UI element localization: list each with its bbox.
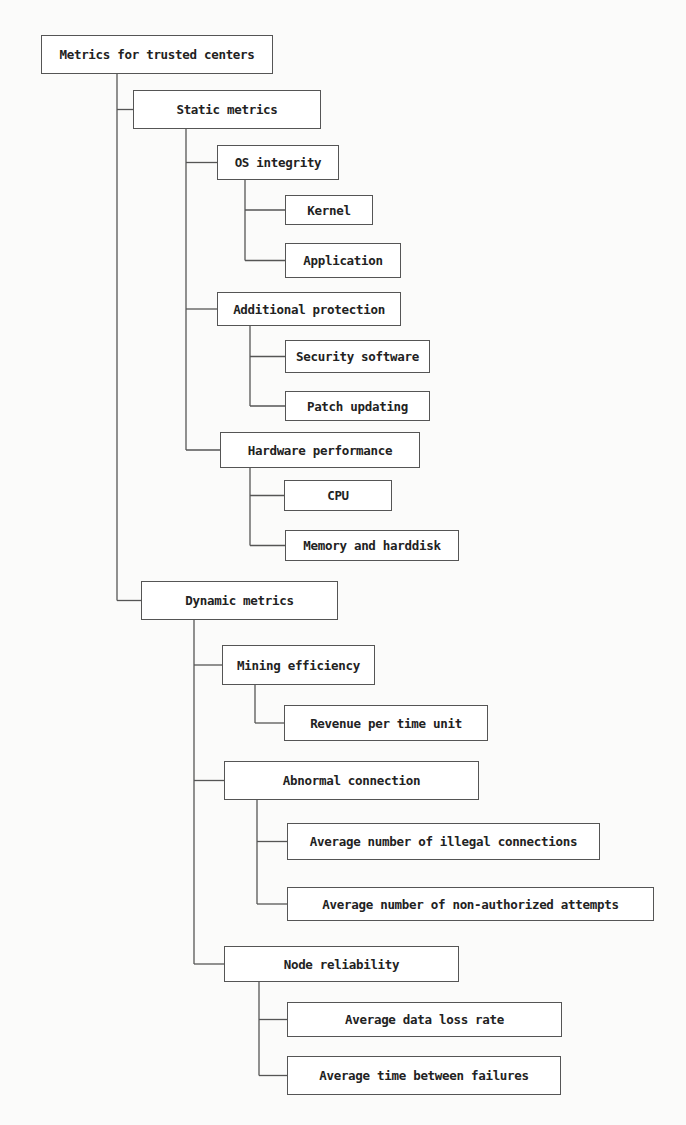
tree-node-root: Metrics for trusted centers	[41, 35, 273, 74]
tree-node-illegal: Average number of illegal connections	[287, 823, 600, 860]
tree-node-addprot: Additional protection	[217, 292, 401, 326]
tree-node-dynamic: Dynamic metrics	[141, 581, 338, 620]
tree-node-mining: Mining efficiency	[222, 645, 375, 685]
tree-node-hw: Hardware performance	[220, 432, 420, 468]
tree-node-dataloss: Average data loss rate	[287, 1002, 562, 1037]
tree-node-static: Static metrics	[133, 90, 321, 129]
tree-node-revenue: Revenue per time unit	[284, 705, 488, 741]
tree-node-nonauth: Average number of non-authorized attempt…	[287, 887, 654, 921]
tree-node-mem: Memory and harddisk	[285, 530, 459, 561]
tree-node-mtbf: Average time between failures	[287, 1056, 561, 1095]
metrics-tree-diagram: Metrics for trusted centersStatic metric…	[0, 0, 686, 1125]
tree-node-app: Application	[285, 243, 401, 278]
tree-node-patch: Patch updating	[285, 391, 430, 421]
tree-node-secsw: Security software	[285, 340, 430, 373]
tree-node-node: Node reliability	[224, 946, 459, 982]
tree-node-cpu: CPU	[284, 480, 392, 511]
tree-node-os: OS integrity	[217, 145, 339, 180]
tree-node-kernel: Kernel	[285, 195, 373, 225]
tree-node-abnormal: Abnormal connection	[224, 761, 479, 800]
